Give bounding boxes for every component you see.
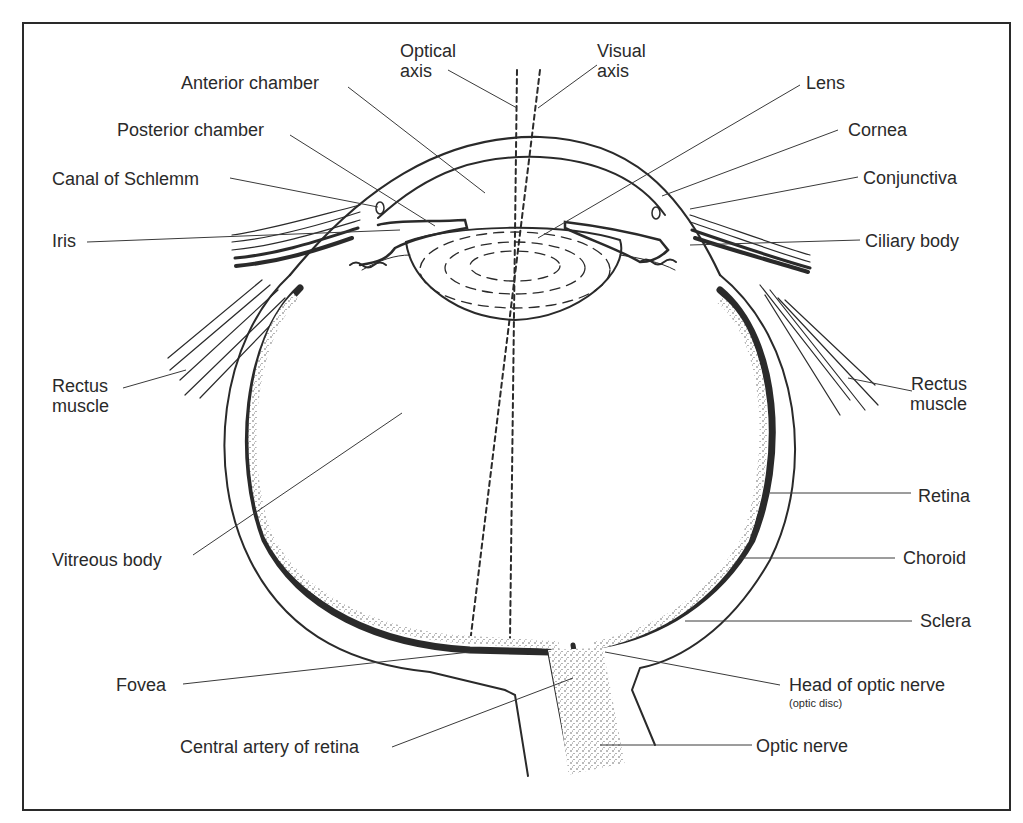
label-optic-nerve: Optic nerve [756,736,848,756]
optical-axis-line [510,70,517,640]
leader-posterior-chamber [290,135,435,226]
retina-layer [252,296,763,770]
sclera-outer-right [632,275,795,745]
label-choroid: Choroid [903,548,966,568]
rectus-muscle-right [760,285,878,415]
canal-of-schlemm-left [376,202,384,214]
label-anterior-chamber: Anterior chamber [181,73,319,93]
label-ciliary-body: Ciliary body [865,231,959,251]
label-rectus-muscle-left: Rectus muscle [52,376,109,416]
label-head-of-optic-nerve: Head of optic nerve [789,675,945,695]
label-lens: Lens [806,73,845,93]
label-rectus-right-line1: Rectus [910,374,967,394]
leader-optical-axis [448,70,517,108]
label-iris: Iris [52,231,76,251]
label-vitreous-body: Vitreous body [52,550,162,570]
visual-axis-line [470,70,540,643]
leader-head-optic-nerve [605,652,780,685]
label-rectus-left-line1: Rectus [52,376,109,396]
leader-visual-axis [538,65,597,108]
canal-of-schlemm-right [652,207,660,219]
label-optical-axis-line2: axis [400,61,456,81]
label-canal-of-schlemm: Canal of Schlemm [52,169,199,189]
label-fovea: Fovea [116,675,166,695]
leader-conjunctiva [690,177,858,209]
leader-canal-of-schlemm [230,178,378,207]
leader-central-artery [392,678,573,747]
label-rectus-right-line2: muscle [910,394,967,414]
label-cornea: Cornea [848,120,907,140]
choroid-layer [248,288,550,652]
label-rectus-left-line2: muscle [52,396,109,416]
label-optical-axis-line1: Optical [400,41,456,61]
leader-anterior-chamber [348,87,485,193]
label-retina: Retina [918,486,970,506]
label-conjunctiva: Conjunctiva [863,168,957,188]
sclera-outer [224,275,528,776]
cornea-inner [378,157,665,218]
label-optical-axis: Optical axis [400,41,456,81]
label-visual-axis: Visual axis [597,41,646,81]
leader-fovea [183,652,470,684]
label-visual-axis-line1: Visual [597,41,646,61]
label-rectus-muscle-right: Rectus muscle [910,374,967,414]
leader-rectus-left [123,370,186,388]
label-visual-axis-line2: axis [597,61,646,81]
leader-rectus-right [848,378,912,391]
label-optic-disc: (optic disc) [789,697,842,709]
label-central-artery-of-retina: Central artery of retina [180,737,359,757]
label-sclera: Sclera [920,611,971,631]
label-posterior-chamber: Posterior chamber [117,120,264,140]
